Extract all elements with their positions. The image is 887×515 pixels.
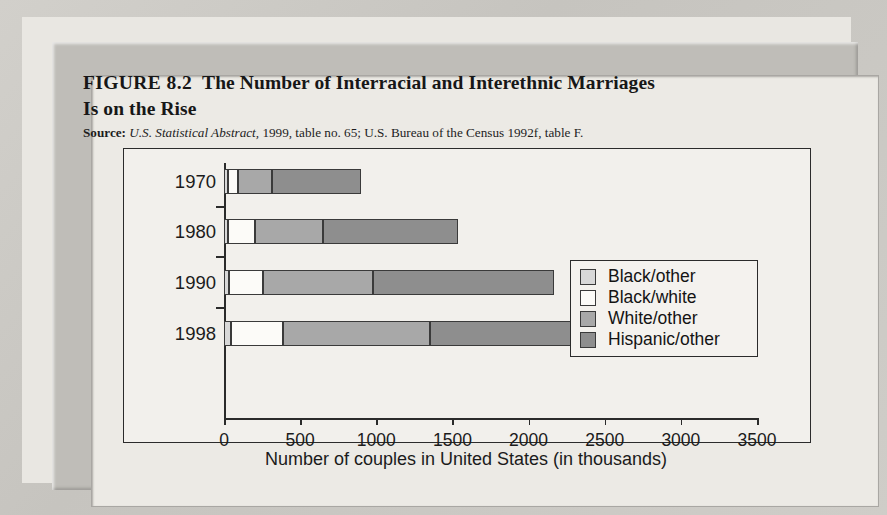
figure-source: Source: U.S. Statistical Abstract, 1999,… xyxy=(83,125,803,141)
bar-segment-white-other-1980 xyxy=(255,219,323,244)
x-tick xyxy=(605,418,607,425)
x-tick-label: 3500 xyxy=(727,430,787,451)
figure-title-line1: The Number of Interracial and Interethni… xyxy=(202,72,655,93)
chart-legend: Black/otherBlack/whiteWhite/otherHispani… xyxy=(570,260,758,357)
bar-row-1980 xyxy=(124,219,757,244)
x-tick-label: 1500 xyxy=(422,430,482,451)
bar-segment-hispanic-other-1990 xyxy=(373,270,554,295)
bar-segment-white-other-1990 xyxy=(263,270,373,295)
legend-label: Black/white xyxy=(608,287,697,308)
bar-segment-black-other-1998 xyxy=(224,321,231,346)
figure-number: FIGURE 8.2 xyxy=(83,72,192,93)
x-tick xyxy=(300,418,302,425)
bar-segment-black-white-1998 xyxy=(231,321,284,346)
scanned-page: FIGURE 8.2 The Number of Interracial and… xyxy=(0,0,887,515)
source-label: Source: xyxy=(83,125,126,140)
plot-area: 0500100015002000250030003500 19701980199… xyxy=(123,148,811,443)
figure-title-line2: Is on the Rise xyxy=(83,98,197,119)
bar-segment-black-white-1980 xyxy=(228,219,255,244)
x-tick-label: 500 xyxy=(270,430,330,451)
x-tick-label: 0 xyxy=(194,430,254,451)
bar-row-1970 xyxy=(124,169,757,194)
x-tick xyxy=(681,418,683,425)
x-tick xyxy=(529,418,531,425)
x-tick xyxy=(224,418,226,425)
x-tick-label: 2500 xyxy=(575,430,635,451)
legend-swatch-icon xyxy=(580,311,596,327)
bar-segment-white-other-1998 xyxy=(283,321,430,346)
x-tick xyxy=(757,418,759,425)
legend-label: Black/other xyxy=(608,266,696,287)
category-axis-line xyxy=(224,418,757,420)
y-tick xyxy=(216,307,224,309)
x-tick-label: 2000 xyxy=(499,430,559,451)
figure-content: FIGURE 8.2 The Number of Interracial and… xyxy=(62,51,848,481)
y-tick xyxy=(216,256,224,258)
source-details: 1999, table no. 65; U.S. Bureau of the C… xyxy=(259,125,583,140)
paper-sheet: FIGURE 8.2 The Number of Interracial and… xyxy=(22,17,851,483)
x-tick xyxy=(376,418,378,425)
x-tick-label: 3000 xyxy=(651,430,711,451)
bar-segment-black-white-1970 xyxy=(228,169,238,194)
figure-title: FIGURE 8.2 The Number of Interracial and… xyxy=(83,70,783,122)
x-axis-title: Number of couples in United States (in t… xyxy=(123,449,809,470)
source-publication: U.S. Statistical Abstract, xyxy=(129,125,259,140)
legend-label: Hispanic/other xyxy=(608,329,720,350)
legend-label: White/other xyxy=(608,308,697,329)
legend-swatch-icon xyxy=(580,332,596,348)
legend-swatch-icon xyxy=(580,269,596,285)
bar-segment-white-other-1970 xyxy=(238,169,272,194)
bar-segment-hispanic-other-1970 xyxy=(272,169,361,194)
bar-segment-hispanic-other-1980 xyxy=(323,219,458,244)
bar-segment-black-white-1990 xyxy=(229,270,263,295)
y-tick xyxy=(216,206,224,208)
x-tick-label: 1000 xyxy=(346,430,406,451)
x-tick xyxy=(452,418,454,425)
legend-swatch-icon xyxy=(580,290,596,306)
